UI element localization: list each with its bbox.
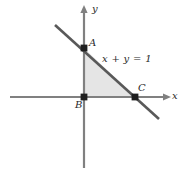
math-figure: y x x + y = 1 A B C	[0, 0, 182, 176]
equation-line	[55, 25, 159, 119]
x-axis-arrow-icon	[163, 93, 171, 100]
point-c-label: C	[138, 83, 146, 93]
y-axis-arrow-icon	[80, 5, 87, 13]
figure-canvas	[0, 0, 182, 176]
point-a-marker	[81, 45, 88, 52]
point-b-label: B	[75, 100, 82, 110]
point-c-marker	[132, 94, 139, 101]
y-axis-label: y	[92, 4, 98, 14]
point-a-label: A	[89, 38, 96, 48]
x-axis-label: x	[172, 91, 178, 101]
equation-label: x + y = 1	[102, 54, 152, 64]
